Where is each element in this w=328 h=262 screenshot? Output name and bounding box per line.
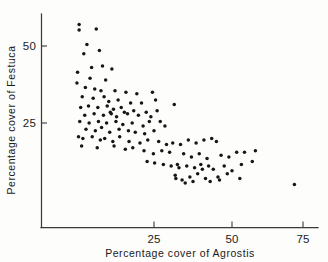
data-point <box>185 164 189 168</box>
data-point <box>179 143 183 147</box>
data-point <box>243 151 247 155</box>
data-point <box>171 141 175 145</box>
data-point <box>163 124 167 128</box>
data-point <box>104 78 108 82</box>
data-point <box>222 164 226 168</box>
data-point <box>121 123 125 127</box>
data-point <box>226 172 230 176</box>
data-point <box>251 160 255 164</box>
data-point <box>293 183 297 187</box>
data-point <box>196 172 200 176</box>
data-point <box>124 147 128 151</box>
data-point <box>158 120 162 124</box>
data-point <box>201 167 205 171</box>
data-point <box>117 127 121 131</box>
data-point <box>138 141 142 145</box>
data-point <box>98 49 102 53</box>
data-point <box>207 164 211 168</box>
data-point <box>92 112 96 116</box>
x-axis-title: Percentage cover of Agrostis <box>105 247 255 259</box>
data-point <box>140 101 144 105</box>
data-point <box>157 140 161 144</box>
data-point <box>173 174 177 178</box>
data-point <box>137 114 141 118</box>
data-point <box>155 109 159 113</box>
data-point <box>148 120 152 124</box>
data-point <box>135 92 139 96</box>
data-point <box>238 177 242 181</box>
data-point <box>76 70 80 74</box>
data-point <box>240 163 244 167</box>
x-tick-label-50: 50 <box>225 233 238 245</box>
data-point <box>119 106 123 110</box>
data-point <box>108 130 112 134</box>
data-point <box>99 89 103 93</box>
data-point <box>216 175 220 179</box>
data-point <box>103 137 107 141</box>
data-point <box>191 180 195 184</box>
data-point <box>210 137 214 141</box>
x-tick-label-75: 75 <box>296 233 309 245</box>
data-point-group <box>75 23 296 187</box>
data-point <box>219 154 223 158</box>
data-point <box>115 115 119 119</box>
data-point <box>124 90 128 94</box>
data-point <box>82 52 86 56</box>
data-point <box>127 140 131 144</box>
data-point <box>95 27 99 31</box>
data-point <box>81 137 85 141</box>
data-point <box>97 120 101 124</box>
data-point <box>75 81 79 85</box>
data-point <box>162 163 166 167</box>
y-tick-label-50: 50 <box>23 40 36 52</box>
data-point <box>90 66 94 70</box>
data-point <box>146 138 150 142</box>
data-point <box>129 101 133 105</box>
data-point <box>112 107 116 111</box>
data-point <box>105 104 109 108</box>
data-point <box>105 121 109 125</box>
data-point <box>85 43 89 47</box>
data-point <box>182 152 186 156</box>
data-point <box>215 140 219 144</box>
data-point <box>131 146 135 150</box>
data-point <box>152 129 156 133</box>
data-point <box>205 157 209 161</box>
data-point <box>77 135 81 139</box>
data-point <box>134 130 138 134</box>
data-point <box>118 135 122 139</box>
data-point <box>100 126 104 129</box>
data-point <box>190 155 194 159</box>
data-point <box>212 167 216 171</box>
data-point <box>107 100 111 104</box>
data-point <box>130 121 134 125</box>
data-point <box>110 67 114 71</box>
data-point <box>87 104 91 108</box>
data-point <box>88 77 92 81</box>
data-point <box>96 106 100 110</box>
data-point <box>77 23 81 27</box>
data-point <box>78 120 82 124</box>
data-point <box>84 86 88 90</box>
data-point <box>116 98 120 102</box>
data-point <box>80 144 84 148</box>
data-point <box>177 166 181 170</box>
scatter-plot-figure: 50 25 25 50 75 Percentage cover of Agros… <box>0 0 328 262</box>
data-point <box>153 161 157 165</box>
data-point <box>168 151 172 155</box>
data-point <box>77 28 81 32</box>
data-point <box>173 103 177 107</box>
data-point <box>123 110 127 114</box>
x-tick-label-25: 25 <box>147 233 160 245</box>
data-point <box>114 120 118 124</box>
data-point <box>204 177 208 181</box>
data-point <box>126 112 130 116</box>
data-point <box>84 127 88 131</box>
data-point <box>90 135 94 139</box>
data-point <box>169 164 173 168</box>
data-point <box>99 138 103 142</box>
data-point <box>80 95 84 99</box>
data-point <box>199 163 203 167</box>
data-point <box>142 149 146 153</box>
data-point <box>194 141 198 145</box>
